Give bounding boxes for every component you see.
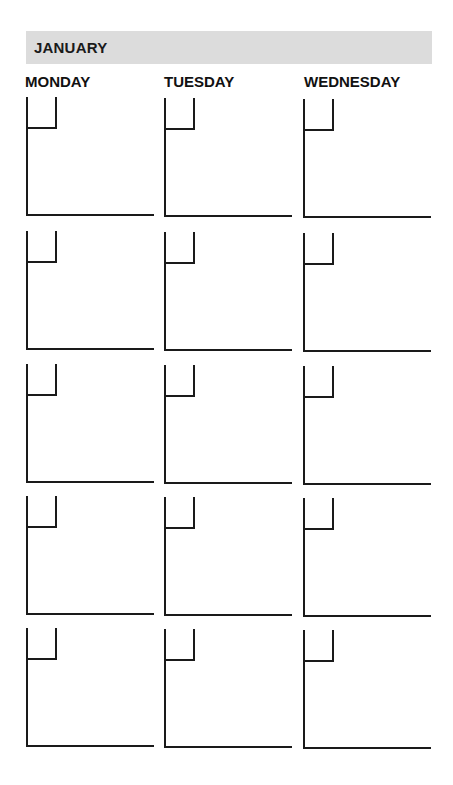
- cell-border-line: [26, 231, 28, 350]
- day-cell-tuesday-week-5[interactable]: [164, 629, 292, 748]
- cell-border-line: [303, 366, 305, 485]
- cell-border-line: [303, 747, 431, 749]
- date-number-box-line: [55, 496, 57, 528]
- cell-border-line: [303, 483, 431, 485]
- cell-border-line: [303, 630, 305, 749]
- day-header-tuesday: TUESDAY: [164, 73, 234, 90]
- day-header-wednesday: WEDNESDAY: [304, 73, 400, 90]
- cell-border-line: [164, 215, 292, 217]
- date-number-box-line: [55, 364, 57, 396]
- date-number-box-line: [193, 365, 195, 397]
- day-cell-monday-week-1[interactable]: [26, 97, 154, 216]
- day-cell-monday-week-2[interactable]: [26, 231, 154, 350]
- date-number-box-line: [193, 629, 195, 661]
- day-cell-tuesday-week-1[interactable]: [164, 98, 292, 217]
- cell-border-line: [26, 496, 28, 615]
- cell-border-line: [164, 232, 166, 351]
- day-cell-wednesday-week-5[interactable]: [303, 630, 431, 749]
- date-number-box-line: [26, 394, 57, 396]
- cell-border-line: [164, 365, 166, 484]
- cell-border-line: [164, 497, 166, 616]
- date-number-box-line: [303, 263, 334, 265]
- cell-border-line: [164, 349, 292, 351]
- date-number-box-line: [332, 99, 334, 131]
- day-header-monday: MONDAY: [25, 73, 90, 90]
- day-cell-tuesday-week-3[interactable]: [164, 365, 292, 484]
- day-cell-wednesday-week-2[interactable]: [303, 233, 431, 352]
- cell-border-line: [164, 614, 292, 616]
- day-cell-wednesday-week-3[interactable]: [303, 366, 431, 485]
- day-cell-monday-week-4[interactable]: [26, 496, 154, 615]
- date-number-box-line: [193, 232, 195, 264]
- date-number-box-line: [164, 527, 195, 529]
- date-number-box-line: [193, 497, 195, 529]
- date-number-box-line: [303, 396, 334, 398]
- day-cell-wednesday-week-1[interactable]: [303, 99, 431, 218]
- cell-border-line: [303, 615, 431, 617]
- date-number-box-line: [55, 628, 57, 660]
- cell-border-line: [164, 482, 292, 484]
- date-number-box-line: [164, 395, 195, 397]
- month-header-bar: JANUARY: [26, 31, 432, 64]
- date-number-box-line: [26, 127, 57, 129]
- cell-border-line: [26, 745, 154, 747]
- date-number-box-line: [332, 366, 334, 398]
- date-number-box-line: [303, 528, 334, 530]
- date-number-box-line: [164, 659, 195, 661]
- cell-border-line: [26, 613, 154, 615]
- day-cell-monday-week-3[interactable]: [26, 364, 154, 483]
- date-number-box-line: [55, 97, 57, 129]
- date-number-box-line: [164, 262, 195, 264]
- cell-border-line: [303, 99, 305, 218]
- cell-border-line: [26, 348, 154, 350]
- cell-border-line: [303, 216, 431, 218]
- date-number-box-line: [332, 233, 334, 265]
- day-cell-tuesday-week-2[interactable]: [164, 232, 292, 351]
- cell-border-line: [26, 364, 28, 483]
- cell-border-line: [26, 97, 28, 216]
- date-number-box-line: [193, 98, 195, 130]
- cell-border-line: [26, 628, 28, 747]
- day-cell-tuesday-week-4[interactable]: [164, 497, 292, 616]
- date-number-box-line: [26, 658, 57, 660]
- month-title: JANUARY: [34, 39, 107, 56]
- date-number-box-line: [303, 660, 334, 662]
- date-number-box-line: [332, 498, 334, 530]
- cell-border-line: [303, 350, 431, 352]
- day-cell-wednesday-week-4[interactable]: [303, 498, 431, 617]
- date-number-box-line: [55, 231, 57, 263]
- day-cell-monday-week-5[interactable]: [26, 628, 154, 747]
- cell-border-line: [303, 498, 305, 617]
- date-number-box-line: [332, 630, 334, 662]
- cell-border-line: [26, 214, 154, 216]
- date-number-box-line: [303, 129, 334, 131]
- cell-border-line: [164, 746, 292, 748]
- date-number-box-line: [26, 261, 57, 263]
- cell-border-line: [164, 629, 166, 748]
- date-number-box-line: [26, 526, 57, 528]
- cell-border-line: [26, 481, 154, 483]
- cell-border-line: [164, 98, 166, 217]
- cell-border-line: [303, 233, 305, 352]
- date-number-box-line: [164, 128, 195, 130]
